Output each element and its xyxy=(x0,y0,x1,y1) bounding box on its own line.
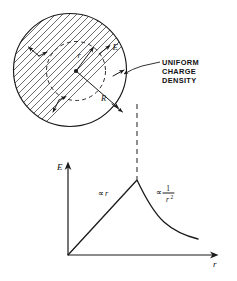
physics-figure: r R E UNIFORM CHARGE DENSITY xyxy=(0,0,237,281)
callout-line-1: UNIFORM xyxy=(162,58,199,67)
callout-leader-line xyxy=(124,62,160,74)
radius-R-arrow xyxy=(76,71,119,108)
charged-sphere-group: r R E xyxy=(0,0,237,238)
x-axis-label: r xyxy=(213,259,217,269)
annotation-proportional-inverse-square: ∝ 1 r 2 xyxy=(156,184,174,204)
callout-line-3: DENSITY xyxy=(162,76,196,85)
field-arrow-lower-right-outer xyxy=(112,104,123,112)
annotation-outside-exponent: 2 xyxy=(171,194,174,200)
field-label-E: E xyxy=(112,42,119,52)
radius-r-label: r xyxy=(78,50,82,60)
annotation-inside-variable: r xyxy=(105,189,109,198)
figure-canvas: r R E UNIFORM CHARGE DENSITY xyxy=(0,0,237,281)
sphere-hatching xyxy=(0,0,237,238)
uniform-charge-density-callout: UNIFORM CHARGE DENSITY xyxy=(124,58,199,85)
annotation-outside-symbol: ∝ xyxy=(156,188,162,197)
annotation-proportional-r: ∝ r xyxy=(98,189,109,198)
annotation-inside-symbol: ∝ xyxy=(98,189,104,198)
y-axis-label: E xyxy=(56,162,63,172)
annotation-outside-denominator: r xyxy=(166,195,169,204)
radius-R-label: R xyxy=(100,93,107,103)
field-arrow-right-outer xyxy=(113,70,124,76)
annotation-outside-numerator: 1 xyxy=(166,184,170,193)
field-arrow-upper-left xyxy=(29,47,40,56)
callout-line-2: CHARGE xyxy=(162,67,196,76)
